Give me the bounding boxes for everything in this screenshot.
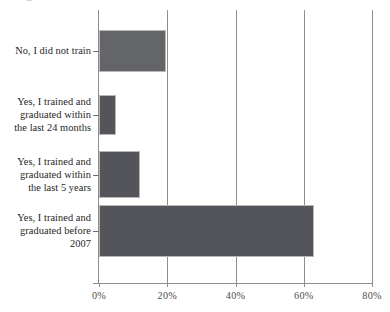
x-tick-20 bbox=[167, 283, 168, 287]
x-tick-label-80: 80% bbox=[352, 290, 390, 301]
bar bbox=[99, 151, 140, 198]
y-tick bbox=[93, 175, 99, 176]
category-label: No, I did not train bbox=[15, 44, 91, 57]
x-tick-0 bbox=[99, 283, 100, 287]
category-label: Yes, I trained and graduated within the … bbox=[14, 95, 91, 135]
bar bbox=[99, 205, 314, 257]
gridline-80 bbox=[372, 10, 373, 283]
y-tick bbox=[93, 115, 99, 116]
y-tick bbox=[93, 51, 99, 52]
category-label: Yes, I trained and graduated before 2007 bbox=[17, 211, 91, 251]
bar bbox=[99, 30, 166, 72]
plot-area bbox=[99, 10, 372, 283]
x-axis-line bbox=[93, 283, 373, 284]
x-tick-label-0: 0% bbox=[79, 290, 119, 301]
x-tick-40 bbox=[236, 283, 237, 287]
x-tick-label-60: 60% bbox=[284, 290, 324, 301]
y-tick bbox=[93, 231, 99, 232]
category-label: Yes, I trained and graduated within the … bbox=[17, 155, 91, 195]
bar bbox=[99, 95, 116, 135]
x-tick-80 bbox=[372, 283, 373, 287]
x-tick-60 bbox=[304, 283, 305, 287]
x-tick-label-20: 20% bbox=[147, 290, 187, 301]
x-tick-label-40: 40% bbox=[216, 290, 256, 301]
horizontal-bar-chart: 0%20%40%60%80%No, I did not trainYes, I … bbox=[0, 0, 390, 312]
